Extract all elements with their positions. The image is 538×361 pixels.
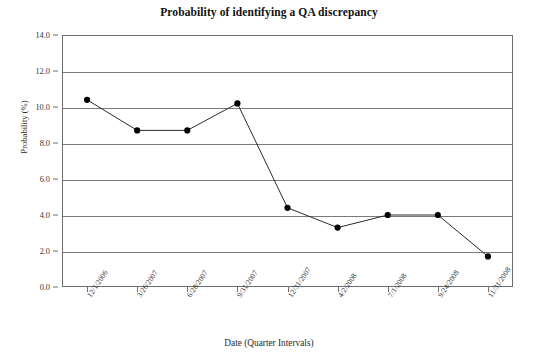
gridline-horizontal — [63, 144, 512, 145]
y-tick-label: 12.0 — [35, 67, 50, 76]
y-tick-mark — [53, 107, 58, 108]
gridline-horizontal — [63, 252, 512, 253]
y-tick-label: 4.0 — [40, 211, 50, 220]
y-tick-label: 14.0 — [35, 31, 50, 40]
gridline-horizontal — [63, 108, 512, 109]
gridline-horizontal — [63, 72, 512, 73]
y-tick-label: 8.0 — [40, 139, 50, 148]
plot-area — [62, 35, 513, 287]
y-tick-mark — [53, 179, 58, 180]
y-tick-label: 6.0 — [40, 175, 50, 184]
gridline-horizontal — [63, 180, 512, 181]
chart-figure: Probability of identifying a QA discrepa… — [0, 0, 538, 361]
y-axis: 0.02.04.06.08.010.012.014.0 — [0, 35, 58, 287]
y-tick-mark — [53, 287, 58, 288]
gridline-horizontal — [63, 216, 512, 217]
y-tick-mark — [53, 215, 58, 216]
y-tick-mark — [53, 251, 58, 252]
y-axis-title: Probability (%) — [19, 57, 29, 197]
x-axis-title: Date (Quarter Intervals) — [0, 338, 538, 348]
y-tick-label: 0.0 — [40, 283, 50, 292]
y-tick-mark — [53, 35, 58, 36]
y-tick-mark — [53, 143, 58, 144]
y-tick-label: 2.0 — [40, 247, 50, 256]
y-tick-mark — [53, 71, 58, 72]
y-tick-label: 10.0 — [35, 103, 50, 112]
chart-title: Probability of identifying a QA discrepa… — [0, 6, 538, 18]
